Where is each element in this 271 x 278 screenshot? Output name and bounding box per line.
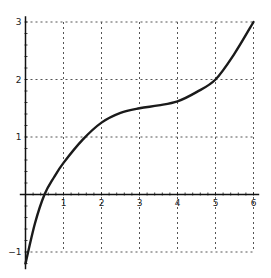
y-tick-label: 2 xyxy=(16,75,22,85)
y-tick-label: 1 xyxy=(16,132,22,142)
x-tick-label: 5 xyxy=(213,198,219,208)
x-tick-label: 4 xyxy=(175,198,181,208)
x-tick-label: 2 xyxy=(99,198,105,208)
x-tick-label: 1 xyxy=(61,198,67,208)
x-tick-label: 6 xyxy=(251,198,257,208)
x-tick-label: 3 xyxy=(137,198,143,208)
grid-lines xyxy=(26,22,254,252)
chart: 123456−1123 xyxy=(0,0,271,278)
y-tick-label: −1 xyxy=(8,247,21,257)
y-tick-label: 3 xyxy=(16,17,22,27)
